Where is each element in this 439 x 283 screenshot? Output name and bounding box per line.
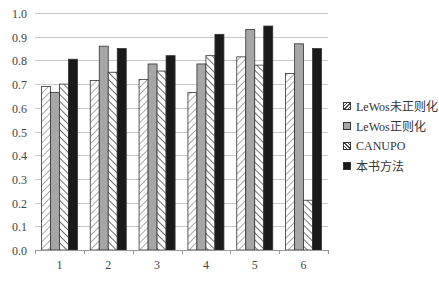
y-tick-label: 0.6 — [12, 102, 27, 116]
backhatch-swatch-icon — [343, 142, 351, 150]
y-tick-label: 0.2 — [12, 197, 27, 211]
bar — [286, 73, 295, 250]
bar — [68, 59, 77, 250]
x-tick-label: 6 — [301, 258, 307, 272]
bar — [139, 79, 148, 250]
legend-label: CANUPO — [356, 139, 405, 154]
bar — [148, 64, 157, 250]
bar — [99, 46, 108, 250]
bar — [188, 92, 197, 250]
y-tick-label: 0.7 — [12, 78, 27, 92]
y-tick-label: 0.0 — [12, 244, 27, 258]
hatch-swatch-icon — [343, 102, 351, 110]
bar — [166, 56, 175, 250]
y-tick-label: 1.0 — [12, 7, 27, 21]
y-tick-label: 0.4 — [12, 149, 27, 163]
bar — [50, 92, 59, 250]
legend-item-lewos-unregularized: LeWos未正则化 — [343, 96, 439, 116]
y-tick-label: 0.8 — [12, 54, 27, 68]
bar — [264, 26, 273, 250]
y-tick-label: 0.9 — [12, 31, 27, 45]
bar — [197, 64, 206, 250]
y-tick-label: 0.5 — [12, 126, 27, 140]
legend-item-canupo: CANUPO — [343, 136, 439, 156]
bar — [90, 81, 99, 250]
x-tick-label: 5 — [252, 258, 258, 272]
x-tick-label: 1 — [56, 258, 62, 272]
bar — [237, 57, 246, 250]
legend-label: LeWos未正则化 — [356, 97, 438, 115]
legend-item-lewos-regularized: LeWos正则化 — [343, 116, 439, 136]
legend-label: 本书方法 — [356, 157, 404, 175]
bar — [295, 44, 304, 250]
bar — [246, 30, 255, 250]
bar — [59, 84, 68, 250]
bar — [41, 86, 50, 250]
x-tick-label: 2 — [105, 258, 111, 272]
y-tick-label: 0.1 — [12, 220, 27, 234]
gray-swatch-icon — [343, 122, 351, 130]
x-tick-label: 3 — [154, 258, 160, 272]
x-axis: 123456 — [35, 250, 329, 272]
legend-item-our-method: 本书方法 — [343, 156, 439, 176]
legend-label: LeWos正则化 — [356, 117, 426, 135]
bar-series — [41, 26, 321, 250]
x-tick-label: 4 — [203, 258, 209, 272]
bar — [215, 34, 224, 250]
bar — [206, 56, 215, 250]
bar — [304, 200, 313, 250]
y-tick-label: 0.3 — [12, 173, 27, 187]
bar — [313, 49, 322, 250]
y-axis: 0.00.10.20.30.40.50.60.70.80.91.0 — [12, 7, 27, 258]
gridlines — [35, 14, 328, 251]
bar — [117, 49, 126, 250]
legend: LeWos未正则化 LeWos正则化 CANUPO 本书方法 — [343, 96, 439, 176]
bar — [255, 65, 264, 250]
bar — [108, 72, 117, 250]
bar — [157, 71, 166, 250]
black-swatch-icon — [343, 162, 351, 170]
